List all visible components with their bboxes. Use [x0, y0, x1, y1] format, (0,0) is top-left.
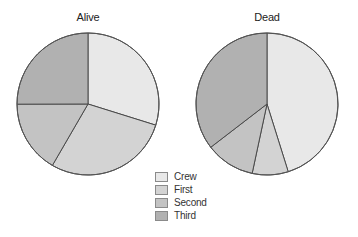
legend-label: Second	[174, 197, 207, 208]
pie-dead	[196, 33, 338, 175]
legend-label: Third	[174, 210, 196, 221]
legend-swatch	[155, 172, 168, 182]
legend-swatch	[155, 185, 168, 195]
legend-item-first: First	[155, 183, 207, 196]
legend-swatch	[155, 198, 168, 208]
legend-label: First	[174, 184, 192, 195]
pie-slice-third	[17, 33, 88, 104]
pie-alive	[17, 33, 159, 175]
legend-item-third: Third	[155, 209, 207, 222]
legend-swatch	[155, 211, 168, 221]
legend-item-crew: Crew	[155, 170, 207, 183]
legend-label: Crew	[174, 171, 197, 182]
legend: Crew First Second Third	[155, 170, 207, 222]
legend-item-second: Second	[155, 196, 207, 209]
